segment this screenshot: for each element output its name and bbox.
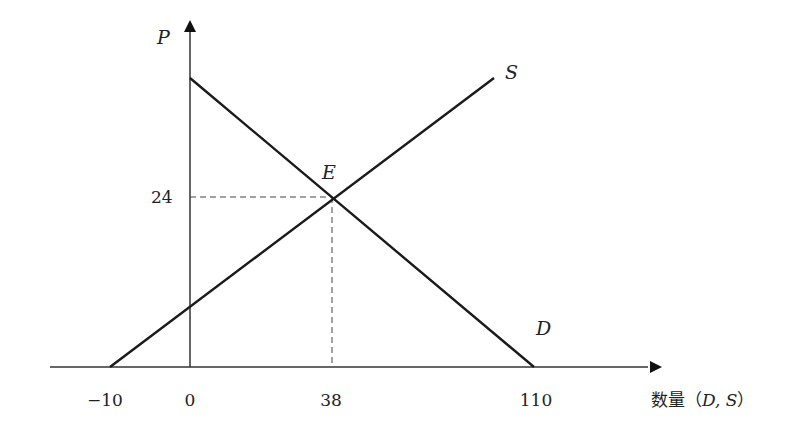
x-tick-minus-10: −10: [87, 392, 123, 409]
x-axis-label-open-paren: （: [685, 390, 702, 410]
demand-curve-label: D: [536, 319, 551, 338]
x-axis-label-vars: D, S: [702, 390, 737, 410]
demand-curve: [190, 78, 534, 367]
supply-demand-diagram: [0, 0, 798, 430]
equilibrium-label: E: [322, 163, 336, 182]
supply-curve-label: S: [505, 63, 518, 82]
y-tick-24: 24: [151, 189, 173, 206]
x-axis-label: 数量（D, S）: [651, 392, 754, 409]
x-axis-arrow-icon: [650, 361, 662, 373]
y-axis-label: P: [157, 28, 170, 47]
supply-curve: [110, 78, 494, 367]
x-tick-38: 38: [320, 392, 342, 409]
x-tick-0: 0: [185, 392, 196, 409]
x-tick-110: 110: [520, 392, 552, 409]
x-axis-label-quantity: 数量: [651, 390, 685, 410]
x-axis-label-close-paren: ）: [737, 390, 754, 410]
y-axis-arrow-icon: [184, 20, 196, 32]
